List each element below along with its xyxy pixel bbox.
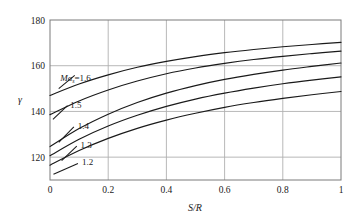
x-tick-label: 0.6 (219, 185, 231, 195)
series-label-value: 1.6 (80, 73, 92, 83)
x-tick-label: 0.4 (160, 185, 172, 195)
y-axis-title: γ (18, 94, 23, 105)
x-tick-label: 0.2 (102, 185, 114, 195)
series-label-value: 1.4 (78, 121, 90, 131)
x-tick-label: 0 (48, 185, 53, 195)
chart-svg: 00.20.40.60.81 120140160180 S/R γ Mas=1.… (0, 0, 359, 219)
series-label-1.5: 1.5 (70, 100, 82, 110)
series-label-1.2: 1.2 (82, 157, 93, 167)
y-tick-label: 120 (31, 153, 46, 163)
series-label-value: 1.2 (82, 157, 93, 167)
series-label-1.6: Mas=1.6 (59, 73, 91, 84)
series-label-value: 1.3 (81, 140, 93, 150)
plot-background (50, 20, 341, 180)
x-tick-label: 1 (339, 185, 344, 195)
series-label-1.4: 1.4 (78, 121, 90, 131)
chart-figure: 00.20.40.60.81 120140160180 S/R γ Mas=1.… (0, 0, 359, 219)
y-tick-label: 160 (31, 61, 46, 71)
y-tick-label: 140 (31, 107, 46, 117)
series-label-prefix: Ma (59, 73, 72, 83)
y-tick-label: 180 (31, 16, 46, 26)
y-axis-tick-labels: 120140160180 (31, 16, 46, 163)
series-label-1.3: 1.3 (81, 140, 93, 150)
x-tick-label: 0.8 (277, 185, 289, 195)
x-axis-title: S/R (188, 202, 202, 213)
series-label-value: 1.5 (70, 100, 82, 110)
x-axis-tick-labels: 00.20.40.60.81 (48, 185, 344, 195)
